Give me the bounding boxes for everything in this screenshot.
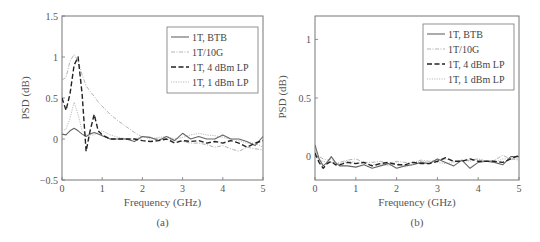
panel-a-xtick-label: 0 bbox=[60, 183, 65, 194]
panel-a-ytick-label: −0.5 bbox=[40, 175, 58, 186]
panel-a-ytick-label: 0.5 bbox=[46, 93, 59, 104]
panel-b-series-line bbox=[315, 145, 519, 168]
panel-a-series-line bbox=[62, 128, 263, 145]
panel-b-ytick-label: 0 bbox=[306, 151, 311, 162]
panel-a-ytick-label: 1 bbox=[53, 52, 58, 63]
panel-a-legend-label: 1T, BTB bbox=[192, 32, 227, 43]
panel-b-xtick-label: 1 bbox=[353, 183, 358, 194]
panel-a-xtick-label: 2 bbox=[140, 183, 145, 194]
panel-b-xtick-label: 5 bbox=[517, 183, 522, 194]
panel-a-xtick-label: 4 bbox=[220, 183, 225, 194]
panel-b-ytick-label: 0.5 bbox=[299, 93, 312, 104]
panel-b-xtick-label: 4 bbox=[476, 183, 481, 194]
panel-a-ylabel: PSD (dB) bbox=[19, 76, 32, 119]
panel-a-xtick-label: 1 bbox=[100, 183, 105, 194]
panel-a-legend-label: 1T, 1 dBm LP bbox=[192, 77, 249, 88]
panel-a-caption: (a) bbox=[156, 216, 169, 229]
panel-a-ytick-label: 1.5 bbox=[46, 11, 59, 22]
panel-b-legend-label: 1T, 1 dBm LP bbox=[448, 74, 505, 85]
panel-b-xtick-label: 2 bbox=[394, 183, 399, 194]
panel-a-legend-label: 1T/10G bbox=[192, 47, 223, 58]
panel-b-legend-label: 1T, 4 dBm LP bbox=[448, 59, 505, 70]
panel-b-legend: 1T, BTB1T/10G1T, 4 dBm LP1T, 1 dBm LP bbox=[423, 24, 514, 90]
panel-a-xtick-label: 5 bbox=[261, 183, 266, 194]
psd-figure: 012345−0.500.511.5 1T, BTB1T/10G1T, 4 dB… bbox=[0, 0, 540, 242]
panel-a-chart: 012345−0.500.511.5 1T, BTB1T/10G1T, 4 dB… bbox=[19, 11, 266, 230]
panel-a-xtick-label: 3 bbox=[180, 183, 185, 194]
panel-b-xtick-label: 3 bbox=[435, 183, 440, 194]
panel-b-ylabel: PSD (dB) bbox=[276, 75, 289, 118]
panel-b-legend-label: 1T/10G bbox=[448, 44, 479, 55]
panel-b-caption: (b) bbox=[411, 216, 424, 229]
panel-a-ytick-label: 0 bbox=[53, 134, 58, 145]
panel-b-xtick-label: 0 bbox=[313, 183, 318, 194]
panel-b-xlabel: Frequency (GHz) bbox=[378, 196, 456, 209]
panel-b-ytick-label: 1 bbox=[306, 34, 311, 45]
panel-a-xlabel: Frequency (GHz) bbox=[124, 196, 202, 209]
panel-a-legend: 1T, BTB1T/10G1T, 4 dBm LP1T, 1 dBm LP bbox=[167, 27, 258, 93]
panel-a-legend-label: 1T, 4 dBm LP bbox=[192, 62, 249, 73]
panel-b-chart: 01234500.51 1T, BTB1T/10G1T, 4 dBm LP1T,… bbox=[276, 16, 522, 229]
panel-b-legend-label: 1T, BTB bbox=[448, 29, 483, 40]
panel-b-series bbox=[315, 145, 519, 168]
